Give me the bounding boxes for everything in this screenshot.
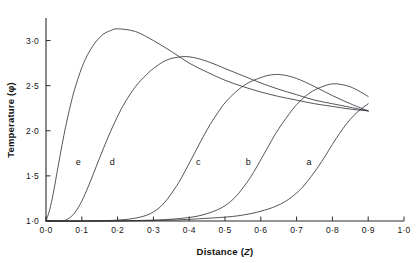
y-axis-title-variable: φ (5, 86, 16, 93)
y-tick-label: 1·5 (26, 171, 39, 181)
curve-label-group: edcba (76, 157, 312, 167)
x-tick-label: 0·4 (183, 225, 196, 235)
x-axis-title-main: Distance ( (197, 246, 245, 257)
y-tick-labels: 1·01·52·02·53·0 (26, 36, 39, 226)
y-axis-ticks (46, 41, 51, 221)
y-axis-title: Temperature (φ) (5, 82, 16, 158)
y-tick-label: 2·0 (26, 126, 39, 136)
x-axis-title-close: ) (250, 246, 253, 257)
curve-label-a: a (307, 157, 312, 167)
x-tick-label: 0·1 (75, 225, 88, 235)
line-chart: edcba 0·00·10·20·30·40·50·60·70·80·91·0 … (0, 0, 419, 263)
curve-e (46, 29, 368, 221)
figure-container: edcba 0·00·10·20·30·40·50·60·70·80·91·0 … (0, 0, 419, 263)
curve-label-c: c (196, 157, 201, 167)
x-tick-label: 0·6 (254, 225, 267, 235)
x-tick-label: 0·7 (290, 225, 303, 235)
curve-label-b: b (246, 157, 251, 167)
x-tick-label: 0·9 (362, 225, 375, 235)
y-tick-label: 3·0 (26, 36, 39, 46)
y-tick-label: 2·5 (26, 81, 39, 91)
y-axis-title-close: ) (5, 82, 16, 85)
curve-a (46, 104, 368, 221)
x-tick-label: 0·0 (40, 225, 53, 235)
x-tick-labels: 0·00·10·20·30·40·50·60·70·80·91·0 (40, 225, 411, 235)
x-tick-label: 0·5 (219, 225, 232, 235)
curve-c (46, 74, 368, 221)
x-tick-label: 0·2 (111, 225, 124, 235)
x-tick-label: 1·0 (398, 225, 411, 235)
curve-label-e: e (76, 157, 81, 167)
y-axis-title-main: Temperature ( (5, 92, 16, 158)
curve-d (46, 57, 368, 222)
x-tick-label: 0·8 (326, 225, 339, 235)
x-axis-title: Distance (Z) (197, 246, 254, 257)
y-tick-label: 1·0 (26, 216, 39, 226)
curve-label-d: d (110, 157, 115, 167)
curve-group (46, 29, 368, 221)
x-tick-label: 0·3 (147, 225, 160, 235)
